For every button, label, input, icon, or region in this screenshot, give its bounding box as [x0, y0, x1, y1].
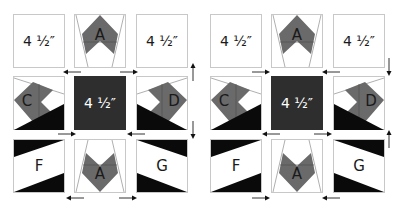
- block-center-dark: 4 ½″: [271, 76, 323, 130]
- block-center-dark: 4 ½″: [74, 76, 126, 130]
- block-a-top: A: [271, 14, 323, 68]
- arrow-down-icon: [386, 58, 392, 76]
- arrow-down-icon: [190, 121, 196, 139]
- block-d: D: [136, 76, 188, 130]
- quilt-layout-left: 4 ½″ A 4 ½″ C 4 ½″ D F A G: [0, 0, 199, 209]
- arrow-right-icon: [120, 69, 138, 75]
- arrow-left-icon: [66, 195, 84, 201]
- quilt-layout-right: 4 ½″ A 4 ½″ C 4 ½″ D F A G: [197, 0, 396, 209]
- arrow-left-icon: [63, 69, 81, 75]
- arrow-right-icon: [119, 195, 137, 201]
- arrow-left-icon: [127, 131, 145, 137]
- arrow-left-icon: [322, 195, 340, 201]
- block-plain-top-left: 4 ½″: [210, 14, 262, 68]
- arrow-right-icon: [58, 131, 76, 137]
- block-c: C: [210, 76, 262, 130]
- block-a-bottom: A: [74, 139, 126, 193]
- block-g: G: [136, 139, 188, 193]
- arrow-up-icon: [386, 130, 392, 148]
- arrow-right-icon: [252, 195, 270, 201]
- arrow-left-icon: [262, 131, 280, 137]
- block-c: C: [13, 76, 65, 130]
- block-f: F: [13, 139, 65, 193]
- arrow-up-icon: [190, 63, 196, 81]
- block-d: D: [333, 76, 385, 130]
- block-g: G: [333, 139, 385, 193]
- arrow-right-icon: [314, 131, 332, 137]
- arrow-right-icon: [252, 69, 270, 75]
- arrow-left-icon: [322, 69, 340, 75]
- block-a-bottom: A: [271, 139, 323, 193]
- block-plain-top-right: 4 ½″: [136, 14, 188, 68]
- block-f: F: [210, 139, 262, 193]
- block-plain-top-left: 4 ½″: [13, 14, 65, 68]
- block-a-top: A: [74, 14, 126, 68]
- block-plain-top-right: 4 ½″: [333, 14, 385, 68]
